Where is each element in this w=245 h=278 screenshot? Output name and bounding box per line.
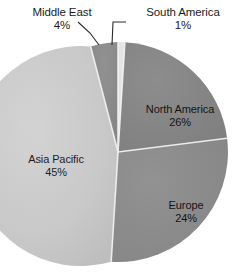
pie-label-middle-east-value: 4%	[10, 19, 114, 32]
leader-line-south-america	[112, 22, 126, 45]
pie-label-north-america-value: 26%	[128, 116, 232, 129]
pie-label-middle-east: Middle East 4%	[10, 6, 114, 32]
pie-label-middle-east-name: Middle East	[10, 6, 114, 19]
pie-label-south-america: South America 1%	[128, 6, 238, 32]
pie-chart-canvas	[0, 0, 245, 278]
pie-label-north-america: North America 26%	[128, 103, 232, 129]
pie-label-europe: Europe 24%	[148, 199, 224, 225]
pie-label-europe-name: Europe	[148, 199, 224, 212]
pie-label-asia-pacific-value: 45%	[8, 166, 104, 179]
pie-label-south-america-value: 1%	[128, 19, 238, 32]
pie-label-europe-value: 24%	[148, 212, 224, 225]
pie-label-asia-pacific: Asia Pacific 45%	[8, 153, 104, 179]
pie-slice-north-america[interactable]	[118, 42, 227, 152]
pie-label-north-america-name: North America	[128, 103, 232, 116]
pie-label-asia-pacific-name: Asia Pacific	[8, 153, 104, 166]
pie-label-south-america-name: South America	[128, 6, 238, 19]
pie-chart-figure: Middle East 4% South America 1% North Am…	[0, 0, 245, 278]
